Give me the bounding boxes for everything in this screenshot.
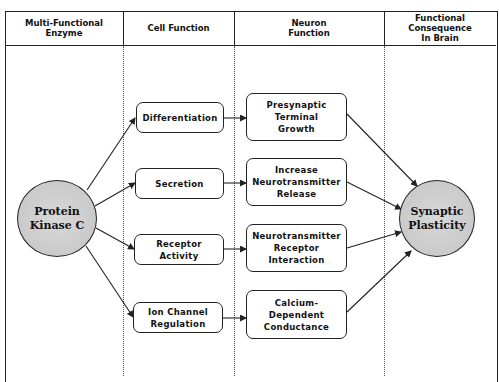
node-synaptic-plasticity: Synaptic Plasticity xyxy=(399,180,475,257)
neuron-function-increase-neurotransmitter-release: Increase Neurotransmitter Release xyxy=(246,158,347,206)
box-label: Differentiation xyxy=(142,112,217,124)
box-label: Ion Channel Regulation xyxy=(148,306,208,330)
box-label: Presynaptic Terminal Growth xyxy=(267,99,327,135)
cell-function-differentiation: Differentiation xyxy=(136,102,224,133)
neuron-function-neurotransmitter-receptor-interaction: Neurotransmitter Receptor Interaction xyxy=(246,224,347,272)
node-label: Synaptic Plasticity xyxy=(408,205,465,233)
box-label: Calcium- Dependent Conductance xyxy=(264,297,329,333)
cell-function-ion-channel-regulation: Ion Channel Regulation xyxy=(133,302,223,333)
node-label: Protein Kinase C xyxy=(30,205,85,233)
cell-function-receptor-activity: Receptor Activity xyxy=(134,234,224,265)
neuron-function-calcium-dependent-conductance: Calcium- Dependent Conductance xyxy=(246,290,347,339)
box-label: Receptor Activity xyxy=(156,238,202,262)
box-label: Increase Neurotransmitter Release xyxy=(252,164,341,200)
node-protein-kinase-c: Protein Kinase C xyxy=(17,180,97,257)
box-label: Secretion xyxy=(155,178,203,190)
cell-function-secretion: Secretion xyxy=(135,168,224,199)
box-label: Neurotransmitter Receptor Interaction xyxy=(252,230,341,266)
neuron-function-presynaptic-terminal-growth: Presynaptic Terminal Growth xyxy=(246,93,347,141)
